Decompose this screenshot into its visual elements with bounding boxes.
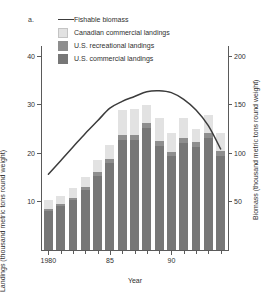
x-tick: [221, 250, 222, 254]
x-tick: [196, 250, 197, 254]
y-tick-label: 30: [27, 101, 35, 108]
x-tick: [208, 250, 209, 254]
fishable-biomass-line: [41, 46, 228, 250]
x-tick: [61, 250, 62, 254]
y-tick-label: 10: [27, 198, 35, 205]
x-axis-label: Year: [128, 277, 142, 284]
x-tick: [135, 250, 136, 254]
x-tick-label: 90: [168, 257, 176, 264]
y-tick: [37, 201, 41, 202]
y-tick-label: 40: [27, 52, 35, 59]
x-tick-label: 1980: [41, 257, 57, 264]
legend-item-fishable-biomass: Fishable biomass: [58, 13, 170, 26]
color-swatch-icon: [58, 28, 68, 38]
y2-tick: [228, 201, 232, 202]
y2-tick-label: 50: [234, 198, 242, 205]
chart-figure: a. Fishable biomass Canadian commercial …: [0, 0, 274, 298]
x-tick: [171, 250, 172, 255]
y2-tick-label: 200: [234, 52, 246, 59]
y-tick: [37, 104, 41, 105]
x-tick: [184, 250, 185, 254]
y2-tick-label: 100: [234, 149, 246, 156]
panel-label: a.: [28, 16, 34, 23]
y-tick-label: 20: [27, 149, 35, 156]
y-axis-left-label: Landings (thousand metric tons round wei…: [0, 150, 6, 292]
y-axis-right-line: [228, 46, 229, 251]
legend-label: Canadian commercial landings: [74, 28, 170, 38]
x-tick: [122, 250, 123, 254]
biomass-line-path: [48, 91, 220, 175]
y2-tick: [228, 56, 232, 57]
y-tick: [37, 153, 41, 154]
x-tick-label: 85: [106, 257, 114, 264]
x-tick: [110, 250, 111, 255]
x-tick: [48, 250, 49, 255]
line-swatch-icon: [58, 15, 74, 25]
legend-label: Fishable biomass: [68, 15, 128, 25]
y2-tick: [228, 153, 232, 154]
x-tick: [73, 250, 74, 254]
y2-tick-label: 150: [234, 101, 246, 108]
x-tick: [147, 250, 148, 254]
y2-tick: [228, 104, 232, 105]
x-tick: [85, 250, 86, 254]
plot-area: 10203040 50100150200 19808590: [41, 46, 228, 250]
y-axis-right-label: Biomass (thousand metric tons round weig…: [252, 80, 259, 220]
x-tick: [98, 250, 99, 254]
y-tick: [37, 56, 41, 57]
x-tick: [159, 250, 160, 254]
legend-item-canadian-commercial-landings: Canadian commercial landings: [58, 26, 170, 39]
